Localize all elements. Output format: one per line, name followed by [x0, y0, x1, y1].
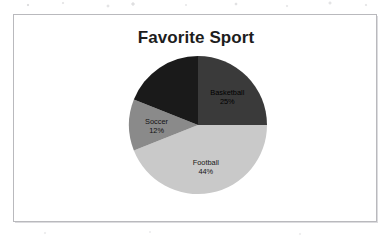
scanned-page: Favorite Sport Basketball25%Football44%S…	[0, 0, 390, 239]
pie-chart: Basketball25%Football44%Soccer12%	[14, 15, 378, 223]
pie-slice-basketball[interactable]	[198, 56, 267, 125]
chart-frame: Favorite Sport Basketball25%Football44%S…	[13, 14, 377, 222]
pie-svg: Basketball25%Football44%Soccer12%	[128, 55, 268, 195]
scan-noise-top	[0, 0, 390, 13]
scan-noise-bottom	[0, 228, 390, 239]
pie-slices	[129, 56, 267, 194]
